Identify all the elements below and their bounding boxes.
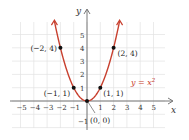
svg-text:−4: −4 <box>30 104 41 112</box>
svg-text:1: 1 <box>80 85 84 93</box>
svg-text:−3: −3 <box>43 104 53 112</box>
svg-text:(0, 0): (0, 0) <box>90 116 110 125</box>
svg-text:4: 4 <box>138 104 143 112</box>
svg-text:(−1, 1): (−1, 1) <box>44 89 71 98</box>
svg-text:3: 3 <box>125 104 129 112</box>
svg-text:−1: −1 <box>70 104 80 112</box>
svg-text:(2, 4): (2, 4) <box>118 49 138 58</box>
svg-text:1: 1 <box>98 104 102 112</box>
svg-text:(−2, 4): (−2, 4) <box>30 44 57 53</box>
svg-text:3: 3 <box>80 58 84 66</box>
grid <box>12 22 165 128</box>
svg-text:−5: −5 <box>17 104 27 112</box>
svg-text:5: 5 <box>80 32 84 40</box>
equation-label: y = x2 <box>130 77 156 87</box>
svg-text:4: 4 <box>80 45 85 53</box>
y-axis-label: y <box>75 6 82 16</box>
parabola-chart: −5−4−3−2−112345−112345 (−2, 4)(−1, 1)(0,… <box>0 0 189 140</box>
svg-text:5: 5 <box>152 104 156 112</box>
svg-text:−2: −2 <box>56 104 66 112</box>
svg-text:−1: −1 <box>78 118 88 126</box>
svg-text:2: 2 <box>112 104 116 112</box>
svg-text:2: 2 <box>80 71 84 79</box>
x-axis-label: x <box>171 105 176 115</box>
svg-text:(1, 1): (1, 1) <box>103 89 123 98</box>
